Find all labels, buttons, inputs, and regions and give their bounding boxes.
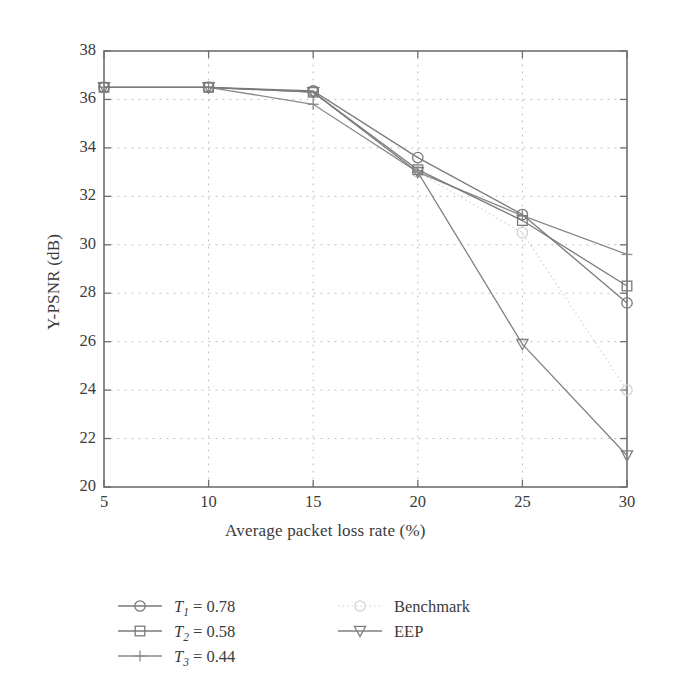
plot-canvas [0, 0, 674, 698]
axes-frame [104, 51, 627, 487]
y-tick-label: 22 [56, 428, 96, 448]
legend-label-T1: T1 = 0.78 [174, 597, 235, 618]
data-series-layer [98, 82, 632, 461]
legend-label-benchmark: Benchmark [394, 597, 470, 617]
y-tick-label: 38 [56, 40, 96, 60]
x-tick-label: 5 [84, 492, 124, 512]
legend-sample-T2 [118, 626, 162, 636]
series-eep [98, 83, 632, 461]
legend-sample-benchmark [338, 601, 382, 611]
series-t-2-0-58 [99, 83, 632, 291]
y-tick-label: 34 [56, 137, 96, 157]
legend-sample-T1 [118, 601, 162, 611]
series-t-3-0-44 [99, 82, 633, 260]
gridlines [104, 51, 627, 487]
x-tick-label: 20 [398, 492, 438, 512]
x-tick-label: 10 [189, 492, 229, 512]
axis-ticks [104, 51, 627, 487]
x-tick-label: 30 [607, 492, 647, 512]
series-t-1-0-78 [99, 82, 632, 308]
y-tick-label: 24 [56, 379, 96, 399]
legend-label-T3: T3 = 0.44 [174, 647, 235, 668]
y-tick-label: 30 [56, 234, 96, 254]
legend-label-eep: EEP [394, 622, 423, 642]
legend-sample-eep [338, 626, 382, 636]
y-tick-label: 32 [56, 185, 96, 205]
legend-sample-T3 [118, 651, 162, 662]
legend-markers [118, 601, 382, 662]
x-tick-label: 15 [293, 492, 333, 512]
x-axis-title: Average packet loss rate (%) [225, 521, 426, 541]
y-tick-label: 36 [56, 88, 96, 108]
y-tick-label: 28 [56, 282, 96, 302]
x-tick-label: 25 [502, 492, 542, 512]
y-tick-label: 26 [56, 331, 96, 351]
chart-figure: Y-PSNR (dB) Average packet loss rate (%)… [0, 0, 674, 698]
legend-label-T2: T2 = 0.58 [174, 622, 235, 643]
